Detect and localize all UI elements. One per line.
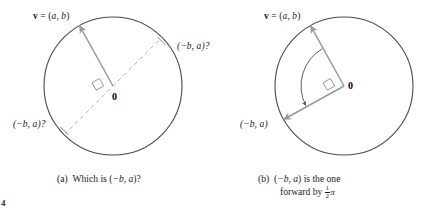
panel-a-caption-tail: )? xyxy=(133,173,140,184)
panel-b-label-lower-left: (−b, a) xyxy=(240,120,268,130)
panel-a-label-lower-left: (−b, a)? xyxy=(13,120,46,130)
panel-b-vector-equals: = ( xyxy=(269,11,283,21)
rotation-arc-b xyxy=(301,49,322,106)
panel-a-caption-words: Which is ( xyxy=(72,173,112,184)
panel-a-vector-label: v = (a, b) xyxy=(33,12,69,22)
panel-a-caption-neg-b: −b xyxy=(112,173,123,184)
panel-b-caption-line2: forward by 12π xyxy=(258,185,340,199)
panel-a-vector-equals: = ( xyxy=(38,11,52,21)
panel-a-caption: (a) Which is (−b, a)? xyxy=(57,172,141,185)
panel-b-caption-tail: ) is the one xyxy=(298,173,340,184)
panel-a-origin-label: 0 xyxy=(112,92,117,102)
panel-b-caption: (b) (−b, a) is the one forward by 12π xyxy=(258,172,340,199)
panel-b-origin-label: 0 xyxy=(348,81,353,91)
panel-b-vector-close: ) xyxy=(297,11,300,21)
right-angle-marker-b xyxy=(323,79,335,91)
panel-b-caption-line1: (b) (−b, a) is the one xyxy=(258,172,340,185)
panel-b-caption-forward-by: forward by xyxy=(280,187,325,198)
panel-b-vector-label: v = (a, b) xyxy=(264,12,300,22)
vector-neg-b-a-b xyxy=(284,86,344,120)
vector-v-a xyxy=(80,26,114,86)
one-half-fraction: 12 xyxy=(325,185,329,199)
panel-a-graphic xyxy=(44,17,182,155)
fraction-numerator: 1 xyxy=(325,185,329,192)
panel-b-caption-tag: (b) xyxy=(258,173,269,184)
right-angle-marker-a xyxy=(92,79,104,91)
page-mark: 4 xyxy=(1,198,6,208)
vector-v-b xyxy=(311,26,345,86)
panel-a-label-upper-right: (−b, a)? xyxy=(177,42,210,52)
pi-symbol: π xyxy=(330,188,335,198)
figure-root: v = (a, b) (−b, a)? (−b, a)? 0 (a) Which… xyxy=(0,0,426,212)
panel-b-graphic xyxy=(275,17,413,155)
panel-a-vector-close: ) xyxy=(66,11,69,21)
panel-a-caption-tag: (a) xyxy=(57,173,68,184)
fraction-denominator: 2 xyxy=(325,192,329,200)
panel-b-caption-neg-b: −b xyxy=(277,173,288,184)
